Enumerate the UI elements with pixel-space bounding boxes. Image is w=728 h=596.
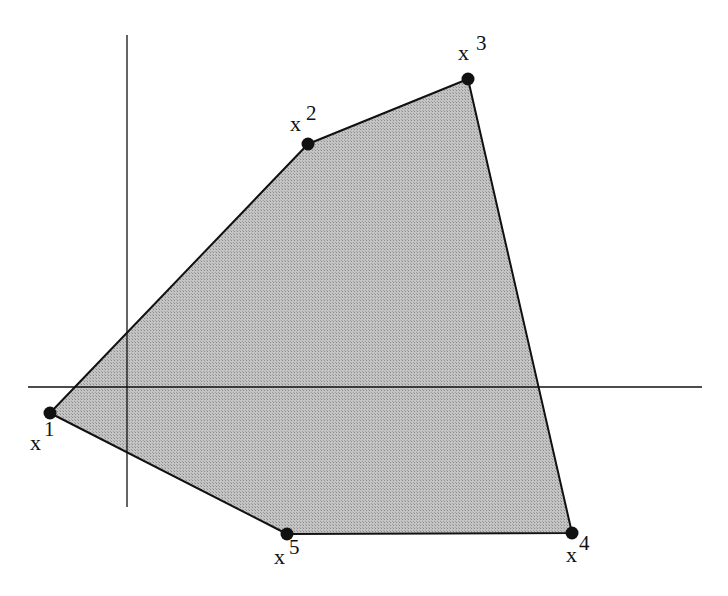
vertex-superscript-x1: 1 — [44, 417, 55, 441]
vertex-point-x4 — [566, 527, 579, 540]
vertex-point-x2 — [302, 138, 315, 151]
vertex-superscript-x3: 3 — [476, 31, 487, 55]
vertex-label-x5: x — [274, 544, 285, 569]
vertex-label-x2: x — [290, 111, 301, 136]
vertex-superscript-x4: 4 — [579, 531, 590, 555]
vertex-label-x4: x — [566, 542, 577, 567]
vertex-superscript-x5: 5 — [289, 535, 300, 559]
vertex-label-x3: x — [458, 40, 469, 65]
polygon-diagram: x1x2x3x4x5 — [0, 0, 728, 596]
vertex-label-x1: x — [30, 430, 41, 455]
vertex-point-x3 — [462, 73, 475, 86]
vertex-superscript-x2: 2 — [306, 101, 317, 125]
